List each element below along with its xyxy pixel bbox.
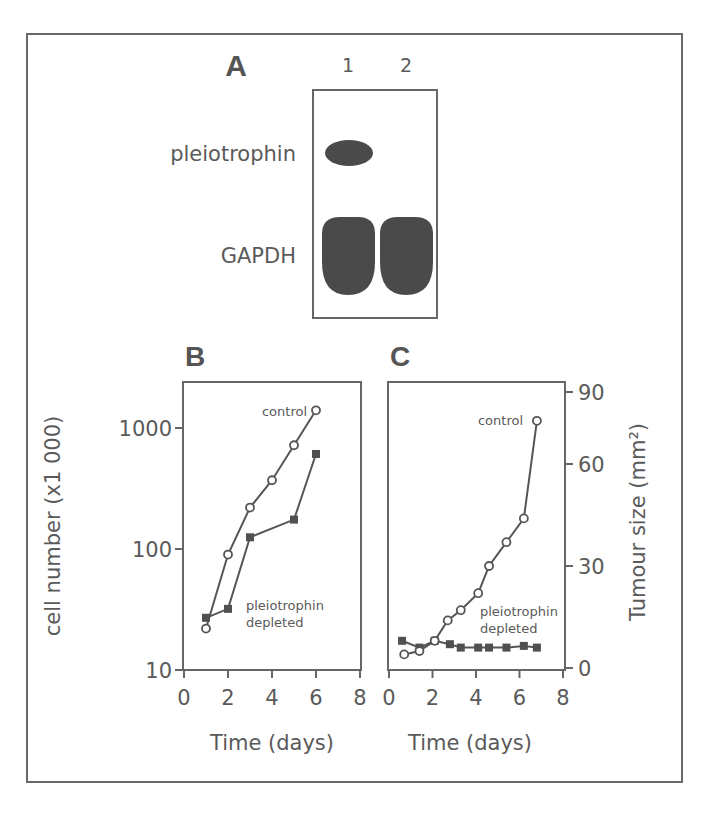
series-line-control [404, 421, 537, 655]
data-point-depleted [485, 644, 493, 652]
data-point-control [312, 406, 320, 414]
panel-c-annotation-depleted-1: pleiotrophin [480, 604, 558, 619]
lane-label-1: 1 [342, 54, 354, 76]
data-point-control [290, 441, 298, 449]
x-tick-label: 4 [265, 686, 278, 710]
panel-c-x-axis: 02468 [382, 670, 569, 710]
data-point-depleted [224, 605, 232, 613]
data-point-control [444, 616, 452, 624]
x-tick-label: 0 [177, 686, 190, 710]
pleiotrophin-band-lane1 [325, 140, 373, 166]
data-point-control [400, 650, 408, 658]
row-label-gapdh: GAPDH [221, 244, 296, 268]
x-tick-label: 2 [426, 686, 439, 710]
y-tick-label: 0 [578, 657, 591, 681]
data-point-depleted [520, 642, 528, 650]
gapdh-band-lane1 [322, 217, 375, 295]
lane-label-2: 2 [400, 54, 412, 76]
x-tick-label: 2 [221, 686, 234, 710]
panel-c-y-axis: 0306090 [565, 381, 605, 681]
panel-b-x-axis: 02468 [177, 670, 366, 710]
data-point-control [533, 417, 541, 425]
data-point-control [224, 551, 232, 559]
panel-a: A 1 2 pleiotrophin GAPDH [170, 49, 437, 318]
data-point-depleted [457, 644, 465, 652]
data-point-depleted [474, 644, 482, 652]
data-point-depleted [446, 640, 454, 648]
data-point-control [415, 647, 423, 655]
data-point-depleted [202, 614, 210, 622]
figure: A 1 2 pleiotrophin GAPDH B 101001000 024… [0, 0, 706, 817]
y-tick-label: 10 [145, 659, 172, 683]
data-point-depleted [246, 533, 254, 541]
series-line-depleted [206, 454, 316, 618]
panel-b-annotation-control: control [262, 404, 307, 419]
data-point-control [502, 538, 510, 546]
data-point-control [202, 625, 210, 633]
x-tick-label: 4 [469, 686, 482, 710]
panel-c-annotation-control: control [478, 413, 523, 428]
x-tick-label: 8 [556, 686, 569, 710]
panel-c-annotation-depleted-2: depleted [480, 621, 537, 636]
data-point-depleted [312, 450, 320, 458]
panel-c-xlabel: Time (days) [407, 731, 532, 755]
data-point-depleted [398, 637, 406, 645]
x-tick-label: 8 [353, 686, 366, 710]
y-tick-label: 1000 [119, 417, 172, 441]
x-tick-label: 6 [309, 686, 322, 710]
y-tick-label: 30 [578, 555, 605, 579]
gapdh-band-lane2 [380, 217, 433, 295]
x-tick-label: 0 [382, 686, 395, 710]
data-point-control [520, 514, 528, 522]
panel-b-letter: B [185, 341, 205, 372]
data-point-depleted [502, 644, 510, 652]
data-point-control [431, 637, 439, 645]
panel-b-y-axis: 101001000 [119, 417, 183, 683]
data-point-control [268, 476, 276, 484]
panel-c-letter: C [390, 341, 410, 372]
y-tick-label: 100 [132, 538, 172, 562]
row-label-pleiotrophin: pleiotrophin [170, 142, 296, 166]
data-point-depleted [290, 516, 298, 524]
panel-b-ylabel: cell number (x1 000) [41, 416, 65, 636]
y-tick-label: 60 [578, 453, 605, 477]
data-point-depleted [533, 644, 541, 652]
data-point-control [485, 562, 493, 570]
panel-c-ylabel: Tumour size (mm²) [626, 423, 650, 622]
panel-b: B 101001000 02468 cell number (x1 000) T… [41, 341, 367, 755]
panel-b-annotation-depleted-2: depleted [246, 615, 303, 630]
panel-b-xlabel: Time (days) [209, 731, 334, 755]
panel-b-annotation-depleted-1: pleiotrophin [246, 598, 324, 613]
series-line-control [206, 410, 316, 628]
panel-c: C 0306090 02468 Tumour size (mm²) Time (… [382, 341, 650, 755]
data-point-control [457, 606, 465, 614]
data-point-control [474, 589, 482, 597]
x-tick-label: 6 [513, 686, 526, 710]
y-tick-label: 90 [578, 381, 605, 405]
data-point-control [246, 504, 254, 512]
panel-a-letter: A [225, 49, 247, 82]
